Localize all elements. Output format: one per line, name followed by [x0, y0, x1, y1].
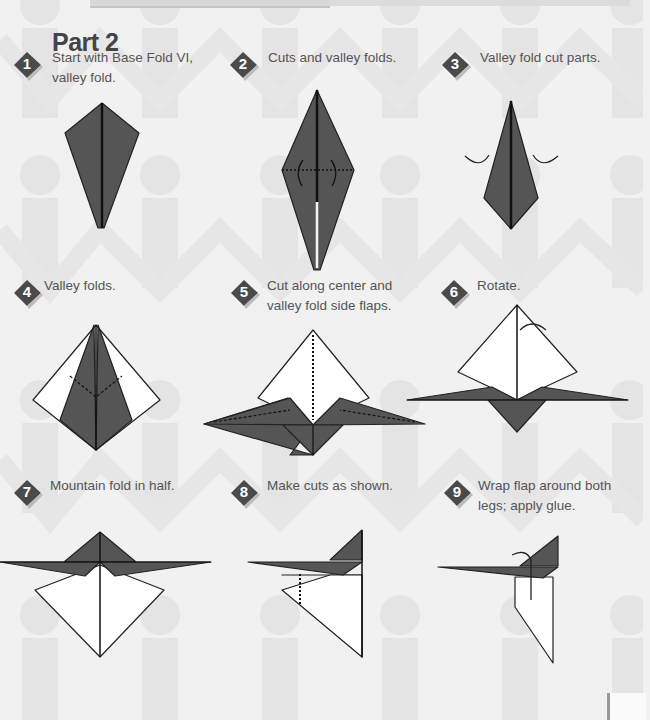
step-1-diagram — [65, 103, 139, 228]
step-9-diagram — [438, 536, 558, 663]
step-6-diagram — [407, 305, 628, 432]
step-4-diagram — [33, 325, 160, 450]
step-7-diagram — [0, 532, 211, 657]
step-2-diagram — [282, 90, 354, 270]
step-8-diagram — [248, 530, 362, 657]
step-3-diagram — [465, 101, 558, 229]
page-tab — [607, 693, 646, 720]
step-5-diagram — [204, 330, 425, 455]
